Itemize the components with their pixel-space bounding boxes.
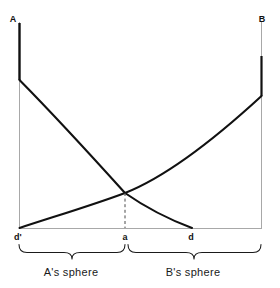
- vertex-label-b: B: [259, 14, 266, 24]
- axis-frame: [19, 22, 262, 229]
- axis-label-d: d: [188, 232, 194, 242]
- brace-b-sphere: [128, 245, 261, 260]
- curve-b-delivered-price: [20, 96, 262, 228]
- axis-label-d-prime: d': [14, 232, 22, 242]
- mill-price-bars: [20, 23, 262, 96]
- brace-a-sphere: [19, 245, 125, 260]
- axis-label-a: a: [122, 232, 128, 242]
- curve-a-delivered-price: [20, 80, 193, 228]
- vertex-label-a: A: [10, 14, 17, 24]
- figure-container: A B d' a d A's sphere B's sphere: [0, 0, 280, 288]
- spheres-of-influence-diagram: A B d' a d A's sphere B's sphere: [0, 0, 280, 288]
- label-b-sphere: B's sphere: [166, 266, 221, 278]
- label-a-sphere: A's sphere: [44, 266, 99, 278]
